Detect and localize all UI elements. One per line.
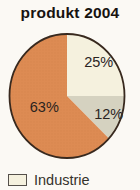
chart-title: produkt 2004 xyxy=(0,4,140,22)
legend-label: Industrie xyxy=(34,173,90,188)
pie-chart-figure: produkt 2004 25%12%63% Industrie xyxy=(0,0,140,190)
legend-swatch xyxy=(8,174,27,186)
slice-label: 12% xyxy=(94,106,123,122)
pie-chart: 25%12%63% xyxy=(0,28,140,168)
slice-label: 25% xyxy=(84,54,113,70)
slice-label: 63% xyxy=(30,99,59,115)
pie-chart-area: 25%12%63% xyxy=(0,28,140,168)
legend: Industrie xyxy=(8,173,90,188)
